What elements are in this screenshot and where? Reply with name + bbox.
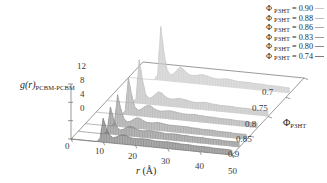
- legend-item[interactable]: ΦP3HT = 0.86: [266, 23, 324, 32]
- legend-color-swatch: [315, 18, 324, 19]
- z-tick-0.8: 0.8: [245, 120, 256, 129]
- y-axis-label: g(r)PCBM-PCBM: [20, 80, 75, 90]
- y-tick-12: 12: [77, 62, 86, 71]
- legend-item[interactable]: ΦP3HT = 0.90: [266, 4, 324, 13]
- z-axis-label-sub: P3HT: [290, 122, 306, 129]
- legend-color-swatch: [315, 56, 324, 57]
- legend-phi: Φ: [266, 42, 272, 51]
- z-tick-0.9: 0.9: [228, 150, 239, 159]
- legend-eq: =: [292, 14, 297, 23]
- legend-value: 0.88: [299, 14, 313, 23]
- legend-phi-sub: P3HT: [274, 54, 290, 61]
- legend-value: 0.80: [299, 42, 313, 51]
- y-axis-label-sub: PCBM-PCBM: [36, 84, 75, 91]
- legend-phi-sub: P3HT: [274, 45, 290, 52]
- legend-color-swatch: [315, 46, 324, 47]
- legend-eq: =: [292, 33, 297, 42]
- y-axis-label-r: (r): [25, 79, 36, 90]
- z-tick-0.7: 0.7: [262, 88, 273, 97]
- legend-color-swatch: [315, 27, 324, 28]
- legend-phi-sub: P3HT: [274, 7, 290, 14]
- legend: ΦP3HT = 0.90 ΦP3HT = 0.88 ΦP3HT = 0.86 Φ…: [266, 4, 324, 61]
- legend-item[interactable]: ΦP3HT = 0.83: [266, 33, 324, 42]
- x-tick-10: 10: [95, 147, 104, 156]
- legend-color-swatch: [315, 8, 324, 9]
- legend-eq: =: [292, 4, 297, 13]
- y-tick-0: 0: [80, 104, 85, 113]
- z-axis-label: ΦP3HT: [283, 118, 306, 128]
- y-tick-4: 4: [80, 90, 85, 99]
- legend-value: 0.86: [299, 23, 313, 32]
- legend-item[interactable]: ΦP3HT = 0.74: [266, 52, 324, 61]
- x-axis-label: r (Å): [136, 166, 156, 176]
- x-axis-label-unit: (Å): [140, 165, 156, 176]
- z-tick-0.75: 0.75: [252, 104, 268, 113]
- legend-phi: Φ: [266, 23, 272, 32]
- legend-value: 0.83: [299, 33, 313, 42]
- legend-eq: =: [292, 23, 297, 32]
- z-tick-0.85: 0.85: [236, 135, 252, 144]
- legend-item[interactable]: ΦP3HT = 0.80: [266, 42, 324, 51]
- chart-figure: g(r)PCBM-PCBM 12 8 4 0 0 10 20 30 40 50 …: [0, 0, 327, 183]
- legend-phi: Φ: [266, 33, 272, 42]
- x-tick-40: 40: [195, 162, 204, 171]
- y-tick-8: 8: [80, 76, 85, 85]
- x-tick-20: 20: [128, 152, 137, 161]
- legend-color-swatch: [315, 37, 324, 38]
- x-tick-50: 50: [228, 167, 237, 176]
- legend-phi-sub: P3HT: [274, 35, 290, 42]
- legend-phi-sub: P3HT: [274, 16, 290, 23]
- legend-item[interactable]: ΦP3HT = 0.88: [266, 14, 324, 23]
- legend-value: 0.90: [299, 4, 313, 13]
- legend-phi: Φ: [266, 14, 272, 23]
- x-tick-0: 0: [65, 142, 70, 151]
- x-tick-30: 30: [161, 157, 170, 166]
- legend-eq: =: [292, 42, 297, 51]
- legend-phi: Φ: [266, 4, 272, 13]
- legend-value: 0.74: [299, 52, 313, 61]
- legend-eq: =: [292, 52, 297, 61]
- legend-phi-sub: P3HT: [274, 26, 290, 33]
- legend-phi: Φ: [266, 52, 272, 61]
